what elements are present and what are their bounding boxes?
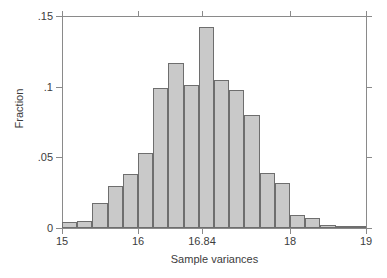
x-axis-tick [138, 228, 139, 234]
histogram-bar [184, 85, 199, 228]
x-axis-tick [62, 228, 63, 234]
histogram-bar [153, 88, 168, 228]
bars-layer [62, 16, 366, 228]
histogram-bar [320, 225, 335, 228]
histogram-bar [77, 221, 92, 228]
x-axis-line [62, 228, 367, 229]
histogram-bar [214, 80, 229, 228]
histogram-bar [108, 186, 123, 228]
x-axis-tick-top [366, 11, 367, 17]
histogram-bar [260, 173, 275, 228]
x-axis-tick-top [62, 11, 63, 17]
y-axis-tick-label: .1 [44, 82, 53, 93]
y-axis-tick-label: .15 [38, 11, 53, 22]
y-axis-title: Fraction [14, 72, 25, 146]
y-axis-tick-right [366, 157, 372, 158]
y-axis-tick [56, 87, 62, 88]
histogram-bar [123, 174, 138, 228]
histogram-bar [305, 218, 320, 228]
y-axis-tick-label: .05 [38, 152, 53, 163]
x-axis-tick-label: 15 [56, 236, 68, 247]
histogram-bar [336, 226, 351, 228]
histogram-bar [168, 63, 183, 228]
x-axis-tick [290, 228, 291, 234]
histogram-bar [229, 90, 244, 229]
y-axis-tick-right [366, 87, 372, 88]
right-axis-line [366, 16, 367, 229]
x-axis-tick-top [202, 11, 203, 17]
x-axis-tick-label: 16.84 [188, 236, 216, 247]
histogram-bar [290, 215, 305, 228]
x-axis-tick-label: 16 [132, 236, 144, 247]
histogram-bar [138, 153, 153, 228]
histogram-bar [351, 226, 366, 228]
x-axis-title: Sample variances [62, 254, 367, 265]
histogram-bar [62, 222, 77, 228]
x-axis-tick-label: 18 [284, 236, 296, 247]
x-axis-tick [366, 228, 367, 234]
histogram-bar [275, 183, 290, 228]
histogram-bar [92, 203, 107, 228]
x-axis-tick [202, 228, 203, 234]
y-axis-tick-label: 0 [47, 223, 53, 234]
histogram-bar [244, 115, 259, 228]
x-axis-tick-top [138, 11, 139, 17]
x-axis-tick-top [290, 11, 291, 17]
x-axis-tick-label: 19 [360, 236, 372, 247]
histogram-bar [199, 27, 214, 228]
y-axis-tick [56, 157, 62, 158]
histogram-chart: 0.05.1.15151616.841819 Fraction Sample v… [0, 0, 387, 278]
